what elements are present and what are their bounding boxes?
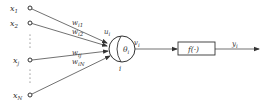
svg-text:f(·): f(·)	[187, 45, 199, 54]
input-node-icon	[28, 21, 32, 25]
activation-function-box: f(·)	[178, 42, 215, 55]
svg-text:wi1: wi1	[72, 19, 83, 28]
svg-text:wi2: wi2	[72, 28, 84, 37]
svg-text:xN: xN	[13, 91, 23, 101]
input-node-icon	[28, 93, 32, 97]
svg-text:x1: x1	[10, 4, 18, 14]
neuron-node: ui θi i	[104, 28, 135, 73]
neuron-diagram: x1 x2 xj xN wi1 wi2 wij wiN ui θi i	[0, 0, 270, 110]
svg-text:x2: x2	[10, 19, 19, 29]
weighted-connections	[32, 9, 110, 94]
input-xj: xj	[13, 56, 32, 67]
weight-labels: wi1 wi2 wij wiN	[72, 19, 85, 67]
svg-text:vi: vi	[134, 39, 140, 48]
net-output: vi	[134, 39, 177, 49]
svg-text:xj: xj	[13, 56, 20, 67]
neuron-circle-icon	[109, 36, 135, 62]
output: yi	[215, 40, 259, 49]
svg-text:ui: ui	[104, 28, 111, 37]
input-xN: xN	[13, 91, 32, 101]
svg-text:i: i	[119, 65, 121, 73]
svg-text:wiN: wiN	[72, 58, 85, 67]
input-x2: x2	[10, 19, 32, 29]
input-x1: x1	[10, 4, 32, 14]
input-node-icon	[28, 58, 32, 62]
input-node-icon	[28, 6, 32, 10]
svg-text:yi: yi	[231, 40, 238, 49]
